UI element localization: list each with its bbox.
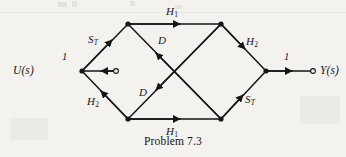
arrowhead-upper-right bbox=[221, 24, 245, 49]
bottom-left-node bbox=[125, 116, 130, 121]
output-gain-label: 1 bbox=[284, 52, 289, 63]
input-terminal-label: U(s) bbox=[13, 65, 34, 77]
figure-caption: Problem 7.3 bbox=[0, 135, 346, 147]
output-terminal-label: Y(s) bbox=[320, 65, 339, 77]
arrowhead-lower-right bbox=[221, 95, 243, 119]
edge-label-lower-left: H2 bbox=[87, 96, 99, 108]
edge-label-diagonal-lower: D bbox=[139, 87, 147, 98]
edge-label-diagonal-upper: D bbox=[158, 35, 166, 46]
edge-label-upper-right: H2 bbox=[246, 36, 258, 48]
output-terminal-node bbox=[311, 69, 316, 74]
input-gain-label: 1 bbox=[62, 52, 67, 63]
edge-label-lower-right: ST bbox=[245, 94, 255, 106]
left-summing-node bbox=[79, 68, 84, 73]
edge-label-top: H1 bbox=[166, 6, 178, 18]
right-summing-node bbox=[263, 68, 268, 73]
signal-flow-graph-figure: U(s) Y(s) 1 1 ST H2 H1 H1 H2 ST D D Prob… bbox=[0, 0, 346, 157]
top-right-node bbox=[218, 21, 223, 26]
bottom-right-node bbox=[218, 116, 223, 121]
input-terminal-node bbox=[114, 69, 119, 74]
arrowhead-lower-left bbox=[101, 91, 128, 119]
edge-label-upper-left: ST bbox=[88, 34, 98, 46]
top-left-node bbox=[125, 21, 130, 26]
arrowhead-diagonal-upper bbox=[156, 53, 221, 119]
